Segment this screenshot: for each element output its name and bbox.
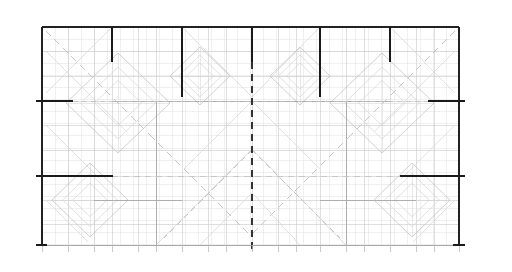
guide-tr [351, 31, 455, 135]
diagonal-web-line [46, 51, 126, 131]
diagonal-web-line [46, 27, 112, 93]
diagonal-web-line [46, 200, 88, 242]
diagonal-web-line [252, 101, 320, 169]
diagonal-web-line [375, 51, 455, 131]
diagonal-web-line [252, 149, 346, 245]
inner-partitions-layer [94, 101, 416, 245]
diagonal-web-line [401, 125, 455, 179]
drawing-canvas [0, 0, 512, 272]
diagonal-web-line [46, 125, 100, 179]
technical-drawing-svg [0, 0, 512, 272]
diagonal-web-line [252, 27, 320, 97]
diagonal-web-line [252, 193, 300, 245]
bottom-ticks-layer [42, 245, 459, 252]
